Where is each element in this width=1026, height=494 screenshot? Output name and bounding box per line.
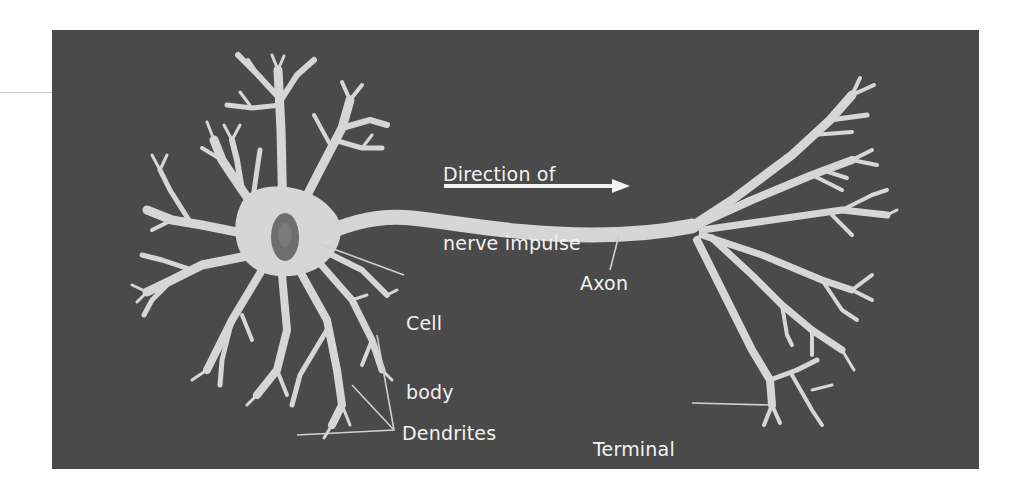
terminal-buttons-label: Terminal buttons bbox=[593, 392, 675, 469]
dendrites-leader bbox=[297, 335, 394, 435]
neuron-diagram-panel: Direction of nerve impulse Cell body Axo… bbox=[52, 30, 979, 469]
page-edge-line bbox=[0, 92, 53, 93]
direction-label: Direction of nerve impulse bbox=[443, 117, 581, 301]
direction-label-line2: nerve impulse bbox=[443, 232, 581, 255]
axon-terminals bbox=[692, 78, 897, 425]
dendrites-label: Dendrites bbox=[402, 422, 496, 445]
axon-label: Axon bbox=[580, 272, 628, 295]
terminal-label-line1: Terminal bbox=[593, 438, 675, 461]
cell-body bbox=[235, 187, 340, 277]
cell-body-label-line1: Cell bbox=[406, 312, 454, 335]
direction-label-line1: Direction of bbox=[443, 163, 581, 186]
terminal-leader bbox=[692, 403, 770, 405]
cell-body-label-line2: body bbox=[406, 381, 454, 404]
